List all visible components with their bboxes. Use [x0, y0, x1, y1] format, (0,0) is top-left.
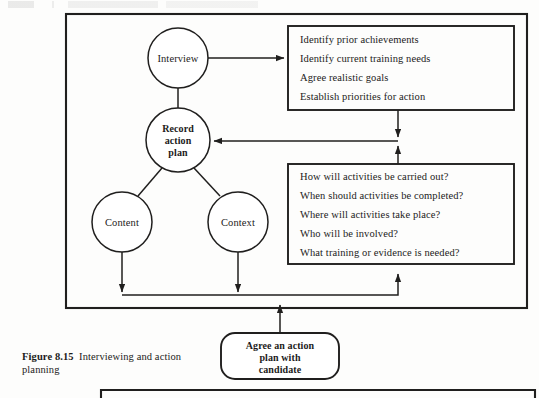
outcomes-item-1: Identify prior achievements	[300, 35, 419, 46]
agree-action-plan-line-3: candidate	[220, 364, 340, 376]
link-record-to-context	[194, 168, 220, 196]
content-node-label: Content	[86, 217, 158, 229]
agree-action-plan-line-2: plan with	[220, 352, 340, 364]
record-action-plan-line-2: action	[142, 135, 214, 147]
figure-caption: Figure 8.15 Interviewing and action plan…	[22, 350, 202, 376]
agree-action-plan-line-1: Agree an action	[220, 340, 340, 352]
link-record-to-content	[138, 168, 162, 196]
next-figure-frame-partial	[101, 390, 535, 398]
outcomes-item-2: Identify current training needs	[300, 54, 431, 65]
outcomes-item-3: Agree realistic goals	[300, 73, 388, 84]
questions-item-2: When should activities be completed?	[300, 191, 463, 202]
record-action-plan-line-3: plan	[142, 147, 214, 159]
record-action-plan-line-1: Record	[142, 123, 214, 135]
context-node-label: Context	[202, 217, 274, 229]
questions-item-3: Where will activities take place?	[300, 210, 440, 221]
questions-item-5: What training or evidence is needed?	[300, 248, 460, 259]
interview-node-label: Interview	[142, 53, 214, 65]
outcomes-item-4: Establish priorities for action	[300, 92, 425, 103]
figure-caption-label: Figure 8.15	[22, 351, 74, 362]
questions-item-1: How will activities be carried out?	[300, 172, 448, 183]
collector-line-to-questions-box	[122, 274, 398, 295]
questions-item-4: Who will be involved?	[300, 229, 398, 240]
